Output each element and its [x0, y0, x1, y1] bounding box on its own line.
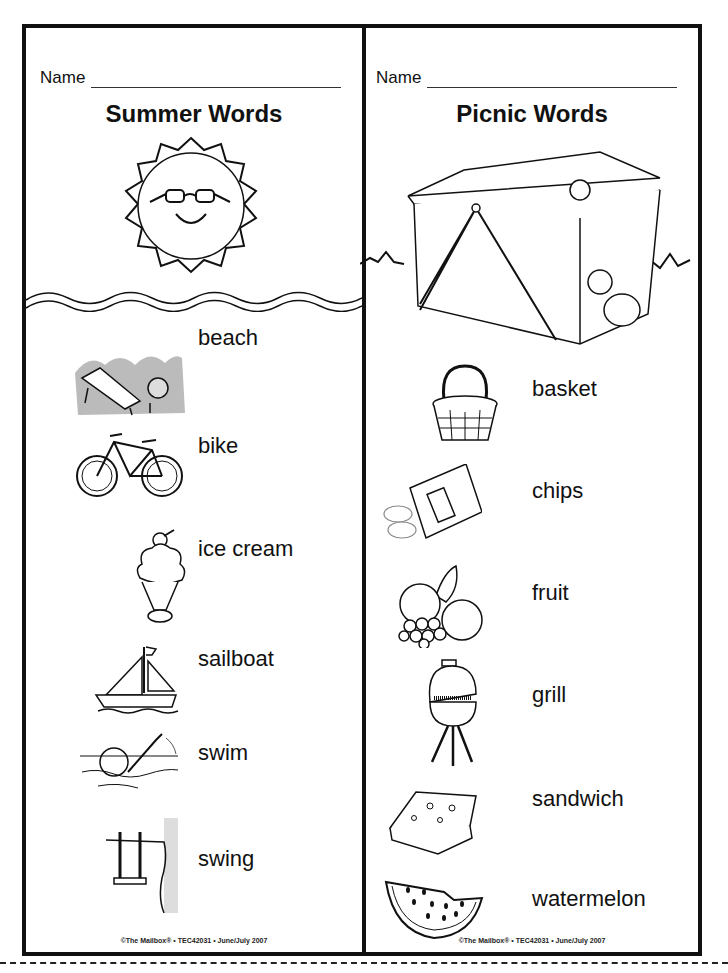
cut-line: [0, 962, 728, 964]
wave-border: [26, 282, 362, 312]
word-label: beach: [198, 325, 258, 351]
word-label: fruit: [532, 580, 569, 606]
word-label: basket: [532, 376, 597, 402]
word-label: swim: [198, 740, 248, 766]
tree-swing-icon: [106, 818, 181, 913]
picnic-words-card: Name Picnic Words basket: [366, 28, 698, 952]
ice-cream-sundae-icon: [134, 528, 188, 628]
word-label: chips: [532, 478, 583, 504]
watermelon-slice-icon: [384, 878, 484, 942]
grill-icon: [426, 658, 482, 768]
word-label: sandwich: [532, 786, 624, 812]
word-label: swing: [198, 846, 254, 872]
name-label: Name: [376, 68, 421, 88]
picnic-basket-with-ants-icon: [360, 134, 700, 354]
chips-bag-icon: [382, 464, 482, 548]
swimmer-icon: [78, 730, 193, 800]
copyright-footer: ©The Mailbox® • TEC42031 • June/July 200…: [26, 937, 362, 944]
basket-icon: [430, 362, 500, 444]
name-row: Name: [40, 68, 341, 88]
card-title: Summer Words: [26, 100, 362, 128]
name-label: Name: [40, 68, 85, 88]
worksheet: Name Summer Words beach: [22, 24, 702, 956]
bicycle-icon: [72, 428, 187, 498]
word-label: sailboat: [198, 646, 274, 672]
fruit-bowl-icon: [380, 562, 484, 648]
word-label: grill: [532, 682, 566, 708]
sailboat-icon: [94, 643, 189, 718]
word-label: ice cream: [198, 536, 293, 562]
name-row: Name: [376, 68, 677, 88]
name-field[interactable]: [427, 71, 677, 88]
sun-icon: [116, 136, 266, 276]
name-field[interactable]: [91, 71, 341, 88]
sandwich-icon: [384, 784, 480, 856]
word-label: watermelon: [532, 886, 646, 912]
summer-words-card: Name Summer Words beach: [26, 28, 362, 952]
copyright-footer: ©The Mailbox® • TEC42031 • June/July 200…: [366, 937, 698, 944]
word-label: bike: [198, 433, 238, 459]
beach-chair-icon: [70, 343, 190, 418]
card-title: Picnic Words: [366, 100, 698, 128]
